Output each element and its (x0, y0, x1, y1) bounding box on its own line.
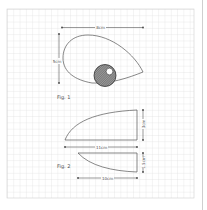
fig1-label: Fig. 1 (57, 94, 70, 101)
fig2-upper-width-label: 11cm (96, 145, 107, 150)
fig2-lower-height-label: 1.5cm (141, 156, 146, 169)
graph-paper-page: 8cm 5cm Fig. 1 (0, 0, 207, 210)
fig2-upper-height-label: 3cm (141, 120, 146, 129)
fig2-label: Fig. 2 (57, 163, 70, 170)
fig2-lower-width-label: 10cm (102, 176, 113, 181)
fig1-height-label: 5cm (53, 59, 62, 64)
fig1-hatched-circle (94, 65, 116, 87)
grid (7, 9, 194, 198)
fig1-highlight-circle (106, 68, 113, 75)
fig1-width-label: 8cm (96, 25, 105, 30)
diagram-canvas: 8cm 5cm Fig. 1 (0, 0, 207, 210)
